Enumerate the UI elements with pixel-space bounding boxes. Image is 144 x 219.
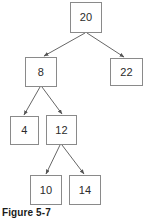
figure-container: 20 8 22 4 12 10 14 Figure 5-7 — [0, 0, 144, 219]
tree-node-label: 10 — [40, 185, 53, 196]
tree-edge — [87, 33, 124, 57]
tree-edge — [44, 33, 85, 56]
tree-node-label: 12 — [55, 125, 68, 136]
tree-node-left-child[interactable]: 8 — [25, 57, 57, 87]
edge-group — [24, 33, 124, 174]
tree-edge — [46, 145, 60, 174]
tree-node-branch-12[interactable]: 12 — [46, 115, 77, 145]
tree-node-leaf-10[interactable]: 10 — [30, 175, 62, 205]
tree-node-label: 22 — [120, 67, 133, 78]
tree-node-label: 20 — [80, 12, 93, 23]
tree-node-leaf-4[interactable]: 4 — [10, 116, 39, 145]
tree-edge — [62, 145, 84, 174]
tree-edge — [42, 87, 62, 114]
tree-edge — [24, 87, 40, 115]
tree-node-label: 14 — [79, 185, 92, 196]
tree-node-leaf-14[interactable]: 14 — [69, 175, 101, 205]
tree-node-right-child[interactable]: 22 — [110, 58, 143, 86]
tree-node-root[interactable]: 20 — [70, 2, 102, 33]
tree-node-label: 4 — [21, 125, 27, 136]
tree-node-label: 8 — [38, 67, 44, 78]
figure-caption: Figure 5-7 — [2, 207, 51, 219]
